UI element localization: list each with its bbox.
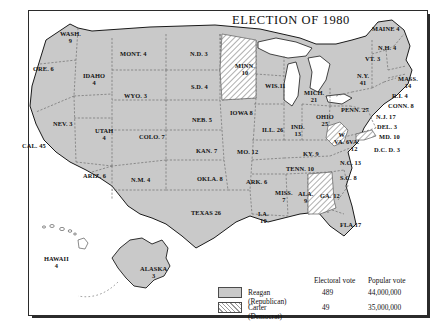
state-label: DEL. 3 <box>377 123 397 130</box>
legend-header-popular: Popular vote <box>368 276 406 285</box>
legend-popular-reagan: 44,000,000 <box>368 288 401 297</box>
state-label: ARIZ. 6 <box>83 172 106 179</box>
state-label: UTAH4 <box>95 127 113 141</box>
state-label: MD. 10 <box>379 133 400 140</box>
state-label: ORE. 6 <box>33 65 54 72</box>
state-label: NEB. 5 <box>192 116 212 123</box>
state-electoral-votes: 14 <box>398 82 418 89</box>
state-label: MINN.10 <box>235 62 255 76</box>
state-electoral-votes: 3 <box>140 272 167 279</box>
state-label: ILL. 26 <box>262 126 283 133</box>
state-label: VA.12 <box>349 138 359 152</box>
state-electoral-votes: 10 <box>258 217 269 224</box>
page-title: ELECTION OF 1980 <box>232 13 350 28</box>
state-label: N.D. 3 <box>190 50 208 57</box>
state-label: R.I. 4 <box>392 92 408 99</box>
state-label: CONN. 8 <box>388 102 414 109</box>
state-label: MONT. 4 <box>120 50 147 57</box>
state-label: MO. 12 <box>237 148 258 155</box>
state-label: MASS.14 <box>398 75 418 89</box>
state-label: KY. 9 <box>303 150 319 157</box>
legend-swatch-reagan <box>218 287 242 298</box>
state-label: N.C. 13 <box>340 159 361 166</box>
state-label: GA. 12 <box>320 192 340 199</box>
state-label: KAN. 7 <box>196 147 217 154</box>
state-electoral-votes: VA. 6 <box>334 138 349 145</box>
state-label: D.C. D. 3 <box>374 146 400 153</box>
state-label: WVA. 6 <box>334 131 349 145</box>
state-electoral-votes: 10 <box>235 69 255 76</box>
state-electoral-votes: 21 <box>304 96 324 103</box>
state-label: WASH.9 <box>60 30 81 44</box>
state-hawaii <box>42 225 88 250</box>
state-label: ALA.9 <box>298 190 314 204</box>
state-electoral-votes: 25 <box>316 120 334 127</box>
state-electoral-votes: 9 <box>298 197 314 204</box>
state-label: MISS.7 <box>275 189 293 203</box>
state-label: OKLA. 8 <box>197 175 223 182</box>
state-electoral-votes: 4 <box>44 262 69 269</box>
state-label: NEV. 3 <box>53 120 73 127</box>
election-map-figure: ELECTION OF 1980 WASH.9ORE. 6CAL. 45IDAH… <box>0 0 436 336</box>
alaska-aleutians <box>78 282 118 297</box>
state-label: OHIO25 <box>316 113 334 127</box>
state-electoral-votes: 7 <box>275 196 293 203</box>
state-label: IOWA 8 <box>230 109 253 116</box>
state-label: COLO. 7 <box>139 133 165 140</box>
state-label: LA.10 <box>258 210 269 224</box>
state-label: PENN. 27 <box>341 106 369 113</box>
legend-swatch-carter <box>218 302 242 313</box>
state-electoral-votes: 12 <box>349 145 359 152</box>
state-label: S.C. 8 <box>340 174 357 181</box>
state-label: FLA.17 <box>340 221 361 228</box>
state-alaska <box>112 238 170 288</box>
state-label: N.J. 17 <box>376 113 396 120</box>
state-electoral-votes: 13 <box>291 130 305 137</box>
legend-popular-carter: 35,000,000 <box>368 303 401 312</box>
state-label: TEXAS 26 <box>191 209 221 216</box>
legend-electoral-carter: 49 <box>322 303 329 312</box>
state-label: N.M. 4 <box>131 176 150 183</box>
state-label: ARK. 6 <box>246 178 267 185</box>
state-label: WIS.11 <box>265 82 286 89</box>
state-label: HAWAII4 <box>44 255 69 269</box>
state-label: WYO. 3 <box>124 92 147 99</box>
state-electoral-votes: 4 <box>95 134 113 141</box>
state-label: TENN. 10 <box>286 165 314 172</box>
legend-electoral-reagan: 489 <box>322 288 333 297</box>
state-label: VT. 3 <box>365 55 380 62</box>
state-label: IDAHO4 <box>83 72 105 86</box>
state-label: MICH.21 <box>304 89 324 103</box>
map-legend: Electoral vote Popular vote Reagan (Repu… <box>218 276 424 316</box>
legend-label-carter: Carter (Democrat) <box>248 303 282 321</box>
state-label: N.H. 4 <box>378 44 396 51</box>
state-electoral-votes: 9 <box>60 37 81 44</box>
state-label: CAL. 45 <box>22 142 46 149</box>
state-electoral-votes: 41 <box>357 79 369 86</box>
state-label: ALASKA3 <box>140 265 167 279</box>
state-label: N.Y.41 <box>357 72 369 86</box>
legend-header-electoral: Electoral vote <box>314 276 355 285</box>
state-label: MAINE 4 <box>372 25 400 32</box>
state-electoral-votes: 4 <box>83 79 105 86</box>
state-label: IND.13 <box>291 123 305 137</box>
state-label: S.D. 4 <box>191 83 208 90</box>
